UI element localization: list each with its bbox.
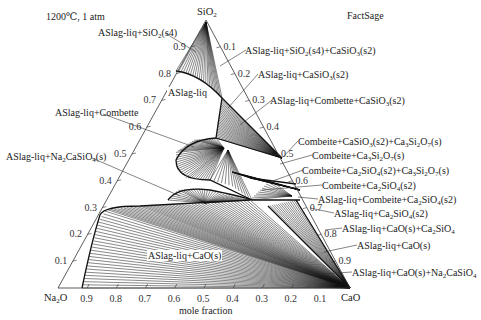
right-tick-label: 0.5 (281, 148, 294, 159)
label-combeite-ca2sio4: Combeite+Ca2SiO4(s2) (322, 180, 416, 191)
label-aslag-sio2-casio3: ASlag-liq+SiO2(s4)+CaSiO3(s2) (245, 45, 376, 56)
bottom-tick-label: 0.4 (226, 293, 239, 304)
conditions-label: 1200℃, 1 atm (46, 11, 105, 22)
bottom-tick-label: 0.8 (109, 293, 122, 304)
label-aslag-casio3: ASlag-liq+CaSiO3(s2) (258, 69, 348, 80)
left-tick-label: 0.7 (144, 94, 157, 105)
left-tick-label: 0.4 (99, 175, 112, 186)
vertex-na2o: Na2O (44, 292, 67, 303)
right-tick-label: 0.9 (339, 255, 352, 266)
right-tick-label: 0.3 (252, 94, 265, 105)
bottom-tick-label: 0.7 (139, 293, 152, 304)
label-aslag-cao: ASlag-liq+CaO(s) (357, 240, 430, 251)
right-tick-label: 0.8 (324, 228, 337, 239)
software-label: FactSage (347, 10, 384, 21)
label-combeite-casio3-ca3si2o7: Combeite+CaSiO3(s2)+Ca3Si2O7(s) (298, 136, 442, 147)
bottom-tick-label: 0.6 (168, 293, 181, 304)
bottom-tick-label: 0.3 (255, 293, 268, 304)
label-combeite-ca3si2o7: Combeite+Ca3Si2O7(s) (312, 150, 404, 161)
vertex-sio2: SiO2 (197, 6, 217, 17)
bottom-tick-label: 0.1 (314, 293, 327, 304)
left-tick-label: 0.9 (173, 41, 186, 52)
phase-diagram: 1200℃, 1 atm FactSage SiO2 Na2O CaO mole… (0, 0, 481, 320)
label-aslag-combette: ASlag-liq+Combette (55, 107, 138, 118)
left-tick-label: 0.6 (129, 121, 142, 132)
right-tick-label: 0.2 (238, 68, 251, 79)
left-tick-label: 0.2 (70, 228, 83, 239)
label-aslag-na2casio4: ASlag-liq+Na2CaSiO4(s) (6, 151, 106, 162)
label-aslag-ca2sio4: ASlag-liq+Ca2SiO4(s2) (334, 208, 428, 219)
right-tick-label: 0.4 (267, 121, 280, 132)
label-aslag-liq: ASlag-liq (167, 87, 208, 98)
left-tick-label: 0.8 (158, 68, 171, 79)
right-tick-label: 0.1 (223, 41, 236, 52)
label-combeite-ca2sio4-ca3si2o7: Combeite+Ca2SiO4(s2)+Ca3Si2O7(s) (302, 165, 449, 176)
left-tick-label: 0.3 (84, 202, 97, 213)
vertex-cao: CaO (341, 292, 360, 303)
left-tick-label: 0.5 (114, 148, 127, 159)
label-aslag-combette-casio3: ASlag-liq+Combette+CaSiO3(s2) (270, 95, 405, 106)
right-tick-label: 0.6 (295, 175, 308, 186)
bottom-tick-label: 0.5 (197, 293, 210, 304)
label-aslag-cao-na2casio4: ASlag-liq+CaO(s)+Na2CaSiO4 (352, 267, 476, 278)
bottom-tick-label: 0.9 (80, 293, 93, 304)
label-aslag-cao-center: ASlag-liq+CaO(s) (147, 250, 222, 261)
bottom-tick-label: 0.2 (285, 293, 298, 304)
label-aslag-combeite-ca2sio4: ASlag-liq+Combeite+Ca2SiO4(s2) (318, 194, 456, 205)
label-aslag-sio2: ASlag-liq+SiO2(s4) (98, 27, 177, 38)
label-aslag-cao-ca2sio4: ASlag-liq+CaO(s)+Ca2SiO4 (342, 223, 455, 234)
left-tick-label: 0.1 (55, 255, 68, 266)
axis-label: mole fraction (179, 305, 233, 316)
